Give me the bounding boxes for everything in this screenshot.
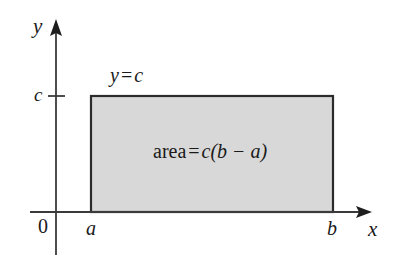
figure-area-under-constant-function: y x c 0 a b y=c area=c(b − a) [0,0,399,265]
area-equation-name: area [153,140,186,162]
area-equation-expression: c(b − a) [202,140,268,162]
x-tick-label-b: b [327,218,337,238]
area-equation-operator: = [186,140,201,162]
diagram-canvas [0,0,399,265]
line-equation-rhs: c [134,64,143,86]
line-equation-operator: = [119,64,134,86]
y-tick-label-c: c [34,85,42,104]
origin-label: 0 [38,216,48,236]
x-tick-label-a: a [86,218,96,238]
y-axis-label: y [33,16,42,37]
x-axis-label: x [368,219,377,240]
line-equation-label: y=c [110,65,143,85]
line-equation-lhs: y [110,64,119,86]
area-equation-label: area=c(b − a) [153,141,267,161]
